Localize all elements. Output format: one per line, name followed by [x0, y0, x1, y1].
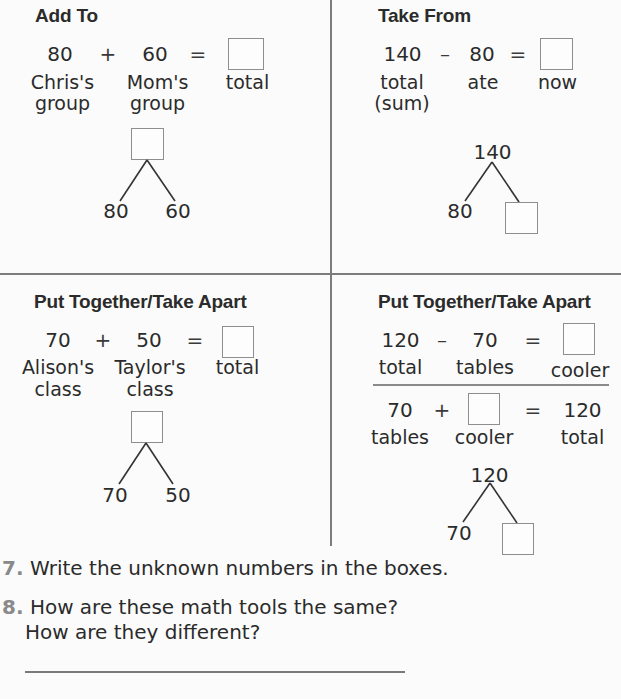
section-title: Add To — [35, 5, 98, 27]
eq1-label-cooler: cooler — [548, 360, 612, 381]
question-text: Write the unknown numbers in the boxes. — [30, 556, 449, 580]
question-number: 7. — [2, 556, 24, 580]
addend-a: 70 — [38, 328, 78, 352]
mountain-right: 60 — [158, 199, 198, 223]
eq1-minuend: 120 — [378, 328, 423, 352]
label-total: total — [205, 357, 270, 378]
section-title: Take From — [378, 5, 471, 27]
mountain-top: 140 — [470, 140, 515, 164]
section-title: Put Together/Take Apart — [378, 291, 591, 313]
eq2-label-cooler: cooler — [452, 427, 516, 448]
eq2-equals-sign: = — [523, 398, 543, 422]
label-b-line2: class — [110, 379, 190, 400]
eq2-label-total: total — [555, 427, 610, 448]
question-7: 7. Write the unknown numbers in the boxe… — [2, 556, 449, 580]
answer-line[interactable] — [25, 671, 405, 673]
subtrahend: 80 — [462, 42, 502, 66]
horizontal-divider — [0, 273, 621, 275]
addend-a: 80 — [40, 42, 80, 66]
minuend: 140 — [380, 42, 425, 66]
mountain-left: 80 — [440, 199, 480, 223]
eq1-equals-sign: = — [523, 328, 543, 352]
mountain-right-box[interactable] — [502, 523, 534, 555]
answer-box-now[interactable] — [540, 38, 573, 70]
question-8-line2: How are they different? — [25, 620, 260, 644]
answer-box-total[interactable] — [228, 38, 264, 70]
label-sum: (sum) — [372, 93, 432, 114]
answer-box-cooler[interactable] — [563, 323, 595, 355]
label-b-line1: Taylor's — [110, 357, 190, 378]
answer-box-total[interactable] — [222, 326, 254, 358]
answer-box-cooler-2[interactable] — [468, 393, 500, 425]
mountain-lines — [0, 0, 1, 1]
label-a-line1: Alison's — [18, 357, 98, 378]
eq1-minus-sign: – — [432, 328, 452, 352]
label-ate: ate — [458, 72, 508, 93]
mountain-left: 80 — [96, 199, 136, 223]
equation-separator — [373, 384, 609, 386]
addend-b: 60 — [135, 42, 175, 66]
section-title: Put Together/Take Apart — [34, 291, 247, 313]
mountain-right: 50 — [158, 483, 198, 507]
plus-sign: + — [93, 328, 113, 352]
mountain-top-box[interactable] — [131, 128, 164, 160]
label-b-line1: Mom's — [120, 72, 195, 93]
label-now: now — [530, 72, 585, 93]
eq1-subtrahend: 70 — [465, 328, 505, 352]
equals-sign: = — [188, 42, 208, 66]
plus-sign: + — [98, 42, 118, 66]
eq2-addend-a: 70 — [380, 398, 420, 422]
label-total: total — [215, 72, 280, 93]
equals-sign: = — [185, 328, 205, 352]
eq2-label-tables: tables — [370, 427, 430, 448]
question-8: 8. How are these math tools the same? — [2, 595, 398, 619]
label-a-line2: class — [18, 379, 98, 400]
label-b-line2: group — [120, 93, 195, 114]
mountain-top-box[interactable] — [131, 411, 163, 443]
minus-sign: – — [435, 42, 455, 66]
eq1-label-total: total — [373, 357, 428, 378]
label-a-line2: group — [25, 93, 100, 114]
eq2-plus-sign: + — [432, 398, 452, 422]
mountain-right-box[interactable] — [505, 202, 538, 234]
label-a-line1: Chris's — [25, 72, 100, 93]
eq2-sum: 120 — [560, 398, 605, 422]
question-text: How are these math tools the same? — [30, 595, 398, 619]
mountain-left: 70 — [95, 483, 135, 507]
question-number: 8. — [2, 595, 24, 619]
mountain-left: 70 — [439, 521, 479, 545]
addend-b: 50 — [129, 328, 169, 352]
label-total: total — [372, 72, 432, 93]
eq1-label-tables: tables — [455, 357, 515, 378]
equals-sign: = — [508, 42, 528, 66]
